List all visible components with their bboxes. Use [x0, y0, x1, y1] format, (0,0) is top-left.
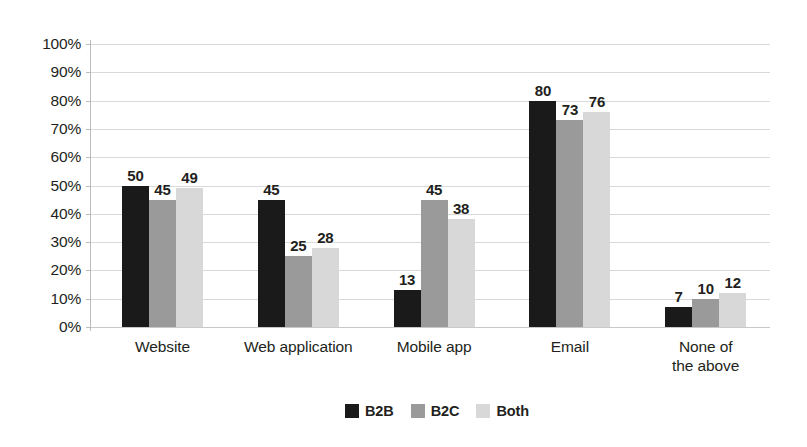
bar-value-label: 80	[523, 83, 563, 98]
legend-swatch	[345, 404, 359, 418]
bar[interactable]	[122, 186, 149, 328]
bar[interactable]	[556, 120, 583, 327]
y-axis-tick-label: 0%	[7, 319, 81, 335]
y-axis-tick-label: 30%	[7, 234, 81, 250]
bar-group: 71012	[665, 44, 746, 327]
legend-entry[interactable]: Both	[476, 404, 529, 419]
bar-chart: 0%10%20%30%40%50%60%70%80%90%100% 504549…	[0, 0, 807, 447]
legend-entry[interactable]: B2C	[411, 404, 460, 419]
x-axis-category-label: None ofthe above	[639, 337, 773, 375]
y-axis-tick-label: 80%	[7, 93, 81, 109]
bar-value-label: 45	[251, 182, 291, 197]
bar[interactable]	[312, 248, 339, 327]
bar[interactable]	[421, 200, 448, 327]
bar[interactable]	[149, 200, 176, 327]
bar-group: 807376	[529, 44, 610, 327]
bar-value-label: 12	[713, 275, 753, 290]
y-axis-tick-label: 90%	[7, 65, 81, 81]
bar[interactable]	[529, 101, 556, 327]
x-axis-category-label: Website	[96, 337, 230, 356]
bar-value-label: 28	[305, 230, 345, 245]
legend-label: B2C	[431, 404, 460, 419]
bar-group: 134538	[394, 44, 475, 327]
bar[interactable]	[176, 188, 203, 327]
y-axis-tick-label: 60%	[7, 149, 81, 165]
bar[interactable]	[665, 307, 692, 327]
bar[interactable]	[583, 112, 610, 327]
y-axis-tick-label: 50%	[7, 178, 81, 194]
bar-value-label: 49	[170, 170, 210, 185]
bar[interactable]	[719, 293, 746, 327]
x-axis-category-label: Web application	[231, 337, 365, 356]
bar[interactable]	[448, 219, 475, 327]
bar-value-label: 76	[577, 94, 617, 109]
y-axis-tick-label: 70%	[7, 121, 81, 137]
plot-area: 50454945252813453880737671012	[91, 44, 770, 327]
legend-label: Both	[496, 404, 529, 419]
bar-group: 504549	[122, 44, 203, 327]
y-axis-tick-label: 20%	[7, 263, 81, 279]
bar-value-label: 45	[414, 182, 454, 197]
chart-legend: B2BB2CBoth	[345, 404, 529, 419]
y-axis-tick-label: 40%	[7, 206, 81, 222]
x-axis-category-label: Email	[503, 337, 637, 356]
bar-value-label: 50	[116, 168, 156, 183]
legend-entry[interactable]: B2B	[345, 404, 394, 419]
legend-swatch	[411, 404, 425, 418]
y-axis-tick-labels: 0%10%20%30%40%50%60%70%80%90%100%	[0, 44, 81, 327]
bar-value-label: 38	[441, 201, 481, 216]
y-axis-tick-label: 100%	[7, 36, 81, 52]
y-axis-tick-label: 10%	[7, 291, 81, 307]
legend-swatch	[476, 404, 490, 418]
x-axis-category-labels: WebsiteWeb applicationMobile appEmailNon…	[91, 337, 770, 387]
legend-label: B2B	[365, 404, 394, 419]
bar-group: 452528	[258, 44, 339, 327]
bar[interactable]	[285, 256, 312, 327]
bar[interactable]	[258, 200, 285, 327]
bar[interactable]	[692, 299, 719, 327]
bar[interactable]	[394, 290, 421, 327]
x-axis-category-label: Mobile app	[367, 337, 501, 356]
gridline	[91, 327, 770, 328]
